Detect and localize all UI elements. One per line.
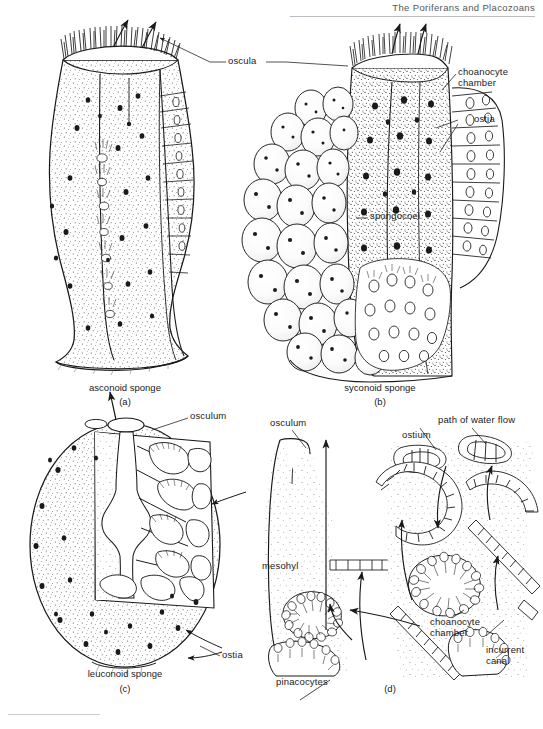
label-choanocyte-chamber-b-line1: choanocyte	[458, 66, 508, 77]
label-path-of-water-flow: path of water flow	[438, 415, 515, 426]
lower-canals-c	[100, 575, 204, 601]
label-osculum-c: osculum	[190, 411, 226, 422]
label-ostia-c: ostia	[222, 650, 243, 661]
label-choanocyte-chamber-d: choanocyte chamber	[430, 617, 480, 638]
panel-a-asconoid-sponge	[50, 20, 194, 375]
panel-id-d: (d)	[330, 683, 450, 694]
label-incurrent-canal-line1: incurrent	[486, 644, 524, 655]
label-choanocyte-chamber-b-line2: chamber	[458, 77, 496, 88]
label-spongocoel: spongocoel	[370, 211, 420, 222]
water-flow-arrows-b	[392, 24, 426, 54]
label-ostia-b: ostia	[474, 114, 495, 125]
label-ostium-d: ostium	[402, 430, 431, 441]
label-choanocyte-chamber-b: choanocyte chamber	[458, 67, 508, 88]
water-flow-arrows-a	[114, 20, 156, 48]
caption-panel-b: syconoid sponge	[270, 382, 490, 393]
label-choanocyte-chamber-d-line1: choanocyte	[430, 616, 480, 627]
panel-id-b: (b)	[270, 396, 490, 407]
label-pinacocytes: pinacocytes	[276, 677, 328, 688]
panel-c-leuconoid-sponge	[30, 392, 246, 675]
label-mesohyl: mesohyl	[262, 561, 298, 572]
caption-panel-a: asconoid sponge	[0, 382, 250, 393]
label-choanocyte-chamber-d-line2: chamber	[430, 627, 468, 638]
panel-id-c: (c)	[0, 683, 250, 694]
caption-panel-c: leuconoid sponge	[0, 668, 250, 679]
label-oscula: oscula	[228, 56, 256, 67]
figure-page: The Poriferans and Placozoans	[0, 0, 543, 729]
panel-id-a: (a)	[0, 396, 250, 407]
label-incurrent-canal: incurrent canal	[486, 645, 524, 666]
label-incurrent-canal-line2: canal	[486, 655, 509, 666]
label-osculum-d: osculum	[270, 418, 306, 429]
